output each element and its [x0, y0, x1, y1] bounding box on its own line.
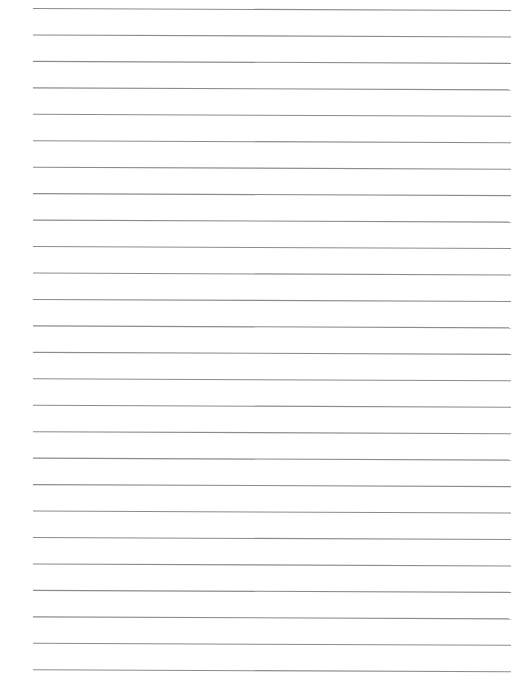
- ruled-line: [33, 114, 511, 116]
- ruled-line: [33, 670, 511, 672]
- lined-paper-page: [0, 0, 512, 685]
- ruled-line: [33, 538, 511, 540]
- ruled-line: [33, 167, 511, 169]
- ruled-line: [33, 432, 511, 434]
- ruled-line: [33, 643, 511, 645]
- ruled-line: [33, 35, 511, 37]
- ruled-line: [33, 564, 511, 566]
- ruled-line: [33, 273, 511, 275]
- ruled-line: [33, 141, 511, 143]
- ruled-line: [33, 617, 511, 619]
- ruled-line: [33, 485, 511, 487]
- ruled-line: [33, 405, 511, 407]
- ruled-line: [33, 326, 511, 328]
- ruled-line: [33, 61, 511, 63]
- ruled-line: [33, 220, 511, 222]
- ruled-lines-group: [33, 9, 511, 672]
- ruled-line: [33, 88, 511, 90]
- ruled-line: [33, 247, 511, 249]
- ruled-line: [33, 511, 511, 513]
- ruled-line: [33, 458, 511, 460]
- ruled-line: [33, 590, 511, 592]
- ruled-line: [33, 9, 511, 11]
- ruled-line: [33, 194, 511, 196]
- ruled-line: [33, 299, 511, 301]
- ruled-line: [33, 379, 511, 381]
- ruled-lines: [0, 0, 512, 685]
- ruled-line: [33, 352, 511, 354]
